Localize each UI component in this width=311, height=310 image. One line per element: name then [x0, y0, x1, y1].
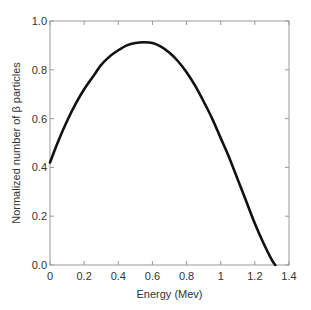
y-axis-label: Normalized number of β particles [10, 62, 22, 224]
axis-ticks: 00.20.40.60.811.21.40.00.20.40.60.81.0 [32, 15, 297, 282]
spectrum-curve [50, 42, 275, 265]
x-tick-label: 0.4 [111, 270, 126, 282]
x-tick-label: 0.2 [76, 270, 91, 282]
y-tick-label: 0.8 [32, 64, 47, 76]
chart: 00.20.40.60.811.21.40.00.20.40.60.81.0 E… [0, 0, 311, 310]
x-tick-label: 1 [218, 270, 224, 282]
y-tick-label: 0.4 [32, 161, 47, 173]
x-tick-label: 1.4 [281, 270, 296, 282]
y-tick-label: 0.0 [32, 259, 47, 271]
y-tick-label: 0.6 [32, 113, 47, 125]
x-tick-label: 1.2 [247, 270, 262, 282]
y-tick-label: 1.0 [32, 15, 47, 27]
x-tick-label: 0.6 [145, 270, 160, 282]
x-tick-label: 0 [47, 270, 53, 282]
y-tick-label: 0.2 [32, 210, 47, 222]
x-axis-label: Energy (Mev) [136, 288, 202, 300]
x-tick-label: 0.8 [179, 270, 194, 282]
data-series [50, 42, 275, 265]
plot-frame [50, 21, 289, 265]
